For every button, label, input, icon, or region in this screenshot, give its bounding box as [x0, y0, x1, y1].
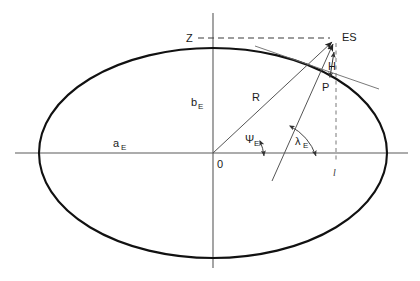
label-surface-point: P — [322, 81, 329, 93]
psi-base: Ψ — [245, 133, 254, 145]
lambda-base: λ — [295, 135, 301, 147]
radius-ray — [213, 42, 332, 153]
label-radius: R — [252, 91, 260, 103]
semi-minor-base: b — [191, 96, 197, 108]
semi-major-base: a — [113, 137, 120, 149]
figure-canvas: a E b E R 0 Z ES H P l Ψ E λ E — [0, 0, 420, 281]
geodetic-ellipse-diagram: a E b E R 0 Z ES H P l Ψ E λ E — [0, 0, 420, 281]
psi-subscript: E — [254, 139, 259, 148]
geodetic-normal-ray — [272, 44, 333, 181]
semi-minor-subscript: E — [198, 102, 203, 111]
label-semi-minor-axis: b E — [191, 96, 203, 111]
label-geodetic-angle: λ E — [295, 135, 308, 150]
tangent-line-at-p — [255, 46, 379, 89]
label-zenith: Z — [186, 32, 193, 44]
label-height: H — [328, 60, 336, 72]
label-longitude-foot: l — [333, 167, 336, 178]
label-semi-major-axis: a E — [113, 137, 126, 152]
semi-major-subscript: E — [121, 143, 126, 152]
psi-angle-arc — [260, 141, 264, 156]
label-origin: 0 — [217, 158, 223, 170]
lambda-subscript: E — [303, 141, 308, 150]
label-satellite: ES — [342, 31, 357, 43]
label-geocentric-angle: Ψ E — [245, 133, 259, 148]
